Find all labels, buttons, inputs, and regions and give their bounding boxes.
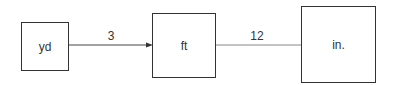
node-ft: ft xyxy=(152,13,216,78)
edge-label-ft-in: 12 xyxy=(250,29,263,43)
node-in: in. xyxy=(301,6,376,83)
edge-label-yd-ft: 3 xyxy=(108,29,115,43)
node-yd: yd xyxy=(21,22,69,71)
node-yd-label: yd xyxy=(39,40,52,54)
node-in-label: in. xyxy=(332,38,345,52)
node-ft-label: ft xyxy=(181,39,188,53)
